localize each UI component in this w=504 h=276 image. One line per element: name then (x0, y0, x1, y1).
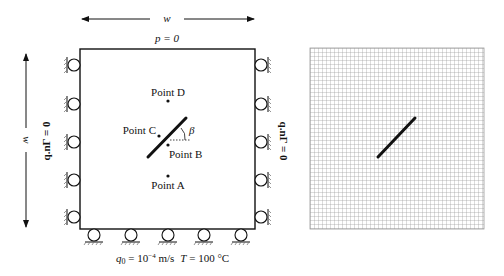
point-a-label: Point A (151, 179, 184, 191)
roller-support-icon (195, 229, 213, 242)
roller-support-icon (255, 172, 268, 188)
roller-support-icon (85, 229, 103, 242)
roller-support-icon (255, 209, 268, 225)
bottom-boundary-label: q0 = 10−4 m/sT = 100 °C (116, 252, 229, 266)
right-rollers (255, 57, 271, 225)
right-boundary-label: q.nΓ = 0 (278, 122, 290, 161)
roller-support-icon (67, 134, 80, 150)
height-label: w (21, 136, 33, 144)
bottom-rollers (84, 229, 250, 245)
roller-support-icon (67, 57, 80, 73)
width-dimension: w (82, 12, 254, 24)
left-rollers (64, 57, 80, 225)
roller-support-icon (255, 96, 268, 112)
left-boundary-label: q.nΓ = 0 (40, 121, 52, 160)
roller-support-icon (232, 229, 250, 242)
height-dimension: w (21, 54, 33, 227)
top-boundary-label: p = 0 (154, 32, 179, 44)
roller-support-icon (255, 134, 268, 150)
roller-support-icon (255, 57, 268, 73)
mesh-diagram (310, 48, 484, 229)
point-c-marker (157, 134, 160, 137)
width-label: w (163, 12, 171, 24)
roller-support-icon (67, 96, 80, 112)
roller-support-icon (67, 172, 80, 188)
roller-support-icon (67, 209, 80, 225)
figure-canvas: w p = 0 w q.nΓ = 0 q.nΓ = 0 (0, 0, 504, 276)
point-b-marker (166, 143, 169, 146)
point-b-label: Point B (169, 148, 202, 160)
point-a-marker (166, 174, 169, 177)
point-c-label: Point C (123, 124, 156, 136)
angle-beta-label: β (188, 124, 195, 136)
roller-support-icon (122, 229, 140, 242)
roller-support-icon (159, 229, 177, 242)
point-d-label: Point D (151, 86, 185, 98)
point-d-marker (166, 99, 169, 102)
